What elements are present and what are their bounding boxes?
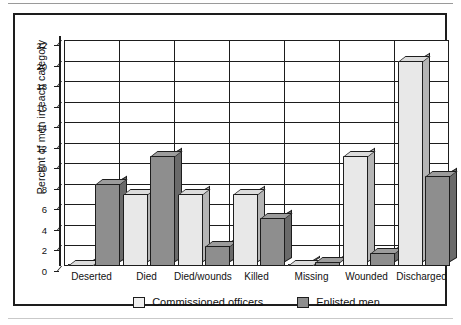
x-tick-label-discharged: Discharged	[394, 271, 449, 282]
y-axis-title: Percent of men in each category	[35, 27, 47, 207]
bar-face	[178, 194, 203, 266]
bar-face	[233, 194, 258, 266]
x-tick-label-died-wounds: Died/wounds	[174, 271, 229, 282]
legend-swatch-enlisted	[297, 297, 309, 308]
y-tick-label: 20	[27, 62, 47, 71]
y-tick-label: 22	[27, 41, 47, 50]
bar-discharged-officers	[398, 61, 423, 266]
category-separator	[339, 40, 340, 266]
bar-face	[150, 156, 175, 266]
y-tick-label: 10	[27, 164, 47, 173]
y-tick-mark	[54, 45, 59, 46]
x-tick-label-died: Died	[119, 271, 174, 282]
y-tick-mark	[54, 271, 59, 272]
y-tick-label: 12	[27, 144, 47, 153]
bar-deserted-officers	[68, 265, 93, 266]
bar-face	[260, 218, 285, 266]
gridline	[64, 122, 449, 123]
y-tick-label: 0	[27, 267, 47, 276]
gridline	[64, 102, 449, 103]
y-tick-label: 4	[27, 226, 47, 235]
y-tick-mark	[54, 127, 59, 128]
bar-face	[370, 253, 395, 266]
page-bottom-rule	[8, 318, 453, 319]
x-tick-label-deserted: Deserted	[64, 271, 119, 282]
y-tick-mark	[54, 250, 59, 251]
y-tick-label: 6	[27, 205, 47, 214]
y-tick-label: 14	[27, 123, 47, 132]
y-tick-mark	[54, 168, 59, 169]
bar-deserted-enlisted	[95, 184, 120, 266]
bar-killed-enlisted	[260, 218, 285, 266]
y-tick-mark	[54, 209, 59, 210]
bar-face	[95, 184, 120, 266]
gridline	[64, 143, 449, 144]
y-tick-mark	[54, 86, 59, 87]
gridline	[64, 163, 449, 164]
legend-item: Commissioned officers	[133, 296, 263, 308]
bar-face	[425, 176, 450, 266]
bar-missing-enlisted	[315, 262, 340, 266]
gridline	[64, 61, 449, 62]
bar-died-officers	[123, 194, 148, 266]
y-tick-label: 18	[27, 82, 47, 91]
category-separator	[229, 40, 230, 266]
bar-face	[343, 156, 368, 266]
page-top-rule	[8, 3, 453, 4]
x-tick-label-wounded: Wounded	[339, 271, 394, 282]
bar-face	[398, 61, 423, 266]
gridline	[64, 40, 449, 41]
y-tick-label: 8	[27, 185, 47, 194]
y-axis-spine	[59, 36, 61, 266]
bar-killed-officers	[233, 194, 258, 266]
bar-missing-officers	[288, 265, 313, 266]
bar-discharged-enlisted	[425, 176, 450, 266]
bar-died-enlisted	[150, 156, 175, 266]
category-separator	[394, 40, 395, 266]
bar-wounded-enlisted	[370, 253, 395, 266]
legend-swatch-officers	[133, 297, 145, 308]
y-tick-label: 16	[27, 103, 47, 112]
y-tick-mark	[54, 230, 59, 231]
x-tick-label-missing: Missing	[284, 271, 339, 282]
bar-died-wounds-enlisted	[205, 246, 230, 266]
plot-area	[64, 40, 449, 266]
bar-face	[123, 194, 148, 266]
legend: Commissioned officersEnlisted men	[64, 296, 449, 308]
chart-frame: Percent of men in each category 02468101…	[13, 13, 447, 306]
legend-item: Enlisted men	[297, 296, 380, 308]
figure: Percent of men in each category 02468101…	[0, 0, 461, 325]
legend-label: Commissioned officers	[152, 296, 263, 308]
bar-died-wounds-officers	[178, 194, 203, 266]
y-tick-label: 2	[27, 246, 47, 255]
bar-face	[205, 246, 230, 266]
bar-side	[450, 167, 457, 262]
legend-label: Enlisted men	[316, 296, 380, 308]
bar-side	[368, 148, 375, 262]
gridline	[64, 81, 449, 82]
x-tick-label-killed: Killed	[229, 271, 284, 282]
bar-wounded-officers	[343, 156, 368, 266]
